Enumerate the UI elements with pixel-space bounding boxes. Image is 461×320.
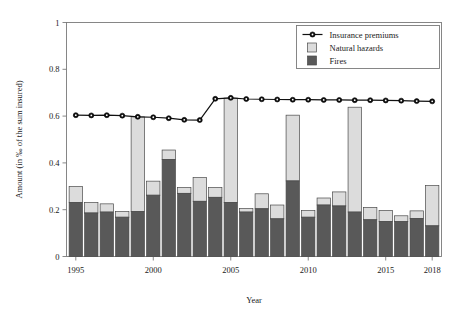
bar-fires-2015 <box>379 221 392 256</box>
premiums-point-center-2018 <box>431 100 433 102</box>
premiums-point-center-2003 <box>199 119 201 121</box>
premiums-point-center-2014 <box>369 99 371 101</box>
bar-group-2011 <box>317 198 330 257</box>
bar-natural-hazards-2013 <box>348 107 361 212</box>
bar-natural-hazards-2001 <box>162 150 175 159</box>
bar-group-1996 <box>85 202 98 256</box>
bar-fires-2001 <box>162 159 175 256</box>
premiums-point-center-1995 <box>75 114 77 116</box>
premiums-point-center-1998 <box>121 115 123 117</box>
legend-swatch-natural-hazards <box>308 43 317 52</box>
bar-group-2007 <box>255 194 268 257</box>
bar-fires-1995 <box>69 202 82 256</box>
bar-group-2015 <box>379 210 392 256</box>
bar-fires-2008 <box>271 219 284 257</box>
bar-natural-hazards-2009 <box>286 115 299 181</box>
x-tick-label-2000: 2000 <box>145 265 162 275</box>
bar-fires-1996 <box>85 213 98 257</box>
premiums-point-center-2008 <box>276 99 278 101</box>
bar-natural-hazards-2014 <box>364 207 377 219</box>
x-tick-label-2010: 2010 <box>300 265 317 275</box>
legend-label-fires: Fires <box>330 56 347 66</box>
premiums-point-center-1999 <box>137 116 139 118</box>
bar-fires-2007 <box>255 209 268 257</box>
bar-natural-hazards-2018 <box>426 186 439 226</box>
bar-group-2005 <box>224 98 237 256</box>
bar-group-2016 <box>395 216 408 257</box>
y-tick-label-1: 1 <box>55 18 59 28</box>
y-tick-label-0: 0 <box>55 252 59 262</box>
bar-group-1999 <box>131 117 144 257</box>
y-tick-label-0.6: 0.6 <box>49 111 60 121</box>
bar-group-2006 <box>240 209 253 257</box>
legend-marker-dot-center-insurance-premiums <box>312 34 314 36</box>
bar-natural-hazards-1997 <box>100 204 113 212</box>
bar-group-2008 <box>271 205 284 256</box>
premiums-point-center-2005 <box>230 97 232 99</box>
premiums-point-center-2004 <box>214 98 216 100</box>
bar-natural-hazards-1995 <box>69 187 82 203</box>
premiums-point-center-2016 <box>400 100 402 102</box>
bar-fires-1999 <box>131 212 144 257</box>
bar-group-2000 <box>147 181 160 256</box>
premiums-point-center-2012 <box>338 99 340 101</box>
legend-label-natural-hazards: Natural hazards <box>330 43 384 53</box>
bar-fires-2018 <box>426 226 439 257</box>
bar-group-2012 <box>333 192 346 257</box>
y-tick-label-0.2: 0.2 <box>49 205 60 215</box>
premiums-point-center-2006 <box>245 98 247 100</box>
bar-group-2013 <box>348 107 361 256</box>
x-tick-label-2015: 2015 <box>377 265 394 275</box>
bar-natural-hazards-2004 <box>209 187 222 197</box>
bar-natural-hazards-2017 <box>410 211 423 219</box>
x-tick-label-2018: 2018 <box>424 265 441 275</box>
bar-group-2009 <box>286 115 299 256</box>
bar-fires-2004 <box>209 197 222 256</box>
bar-group-2017 <box>410 211 423 257</box>
bar-fires-2006 <box>240 212 253 256</box>
bar-group-2002 <box>178 187 191 256</box>
bar-fires-2013 <box>348 212 361 256</box>
bar-natural-hazards-1996 <box>85 202 98 213</box>
premiums-point-center-1997 <box>106 114 108 116</box>
bar-fires-2002 <box>178 193 191 256</box>
premiums-point-center-2011 <box>323 99 325 101</box>
x-tick-label-1995: 1995 <box>67 265 84 275</box>
bar-fires-2011 <box>317 205 330 256</box>
bar-group-1997 <box>100 204 113 257</box>
bar-natural-hazards-2006 <box>240 209 253 213</box>
legend-swatch-fires <box>308 56 317 65</box>
bar-fires-2005 <box>224 202 237 256</box>
premiums-point-center-2017 <box>416 100 418 102</box>
bar-natural-hazards-2005 <box>224 98 237 202</box>
bar-natural-hazards-2016 <box>395 216 408 222</box>
bar-fires-1997 <box>100 212 113 256</box>
bar-natural-hazards-2002 <box>178 187 191 193</box>
premiums-point-center-2007 <box>261 98 263 100</box>
premiums-point-center-1996 <box>90 114 92 116</box>
y-tick-label-0.8: 0.8 <box>49 64 60 74</box>
premiums-point-center-2000 <box>152 116 154 118</box>
bar-natural-hazards-2010 <box>302 211 315 218</box>
chart-figure: 00.20.40.60.81199520002005201020152018Ye… <box>0 0 461 320</box>
bar-fires-2014 <box>364 220 377 257</box>
x-tick-label-2005: 2005 <box>222 265 239 275</box>
bar-fires-2016 <box>395 222 408 257</box>
bar-group-2001 <box>162 150 175 256</box>
bar-natural-hazards-2007 <box>255 194 268 209</box>
bar-group-2018 <box>426 186 439 257</box>
bar-fires-2009 <box>286 181 299 257</box>
bar-fires-2017 <box>410 219 423 257</box>
bar-natural-hazards-2011 <box>317 198 330 205</box>
premiums-point-center-2002 <box>183 119 185 121</box>
premiums-point-center-2009 <box>292 99 294 101</box>
legend-label-insurance-premiums: Insurance premiums <box>330 30 399 40</box>
bar-fires-2012 <box>333 206 346 257</box>
bar-natural-hazards-1999 <box>131 117 144 212</box>
bar-natural-hazards-1998 <box>116 212 129 218</box>
premiums-point-center-2013 <box>354 99 356 101</box>
x-axis-label: Year <box>246 295 262 305</box>
premiums-point-center-2001 <box>168 117 170 119</box>
bar-group-2003 <box>193 178 206 257</box>
y-axis-label: Amount (in ‰ of the sum insured) <box>14 80 24 198</box>
